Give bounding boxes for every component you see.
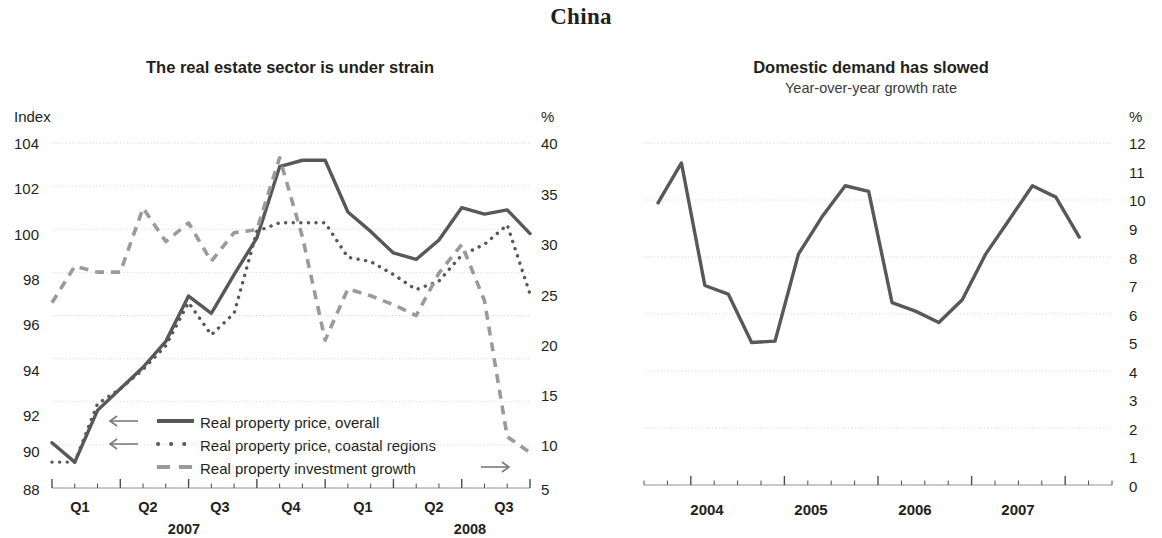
legend-arrow-right-investment <box>481 462 509 472</box>
left-chart-plot <box>0 0 592 538</box>
chart-panel-right: Domestic demand has slowed Year-over-yea… <box>592 0 1162 538</box>
legend-arrow-left-coastal <box>110 439 138 449</box>
left-series-real-property-price-overall <box>52 160 530 462</box>
legend-arrow-left-overall <box>110 416 138 426</box>
right-chart-plot <box>592 0 1162 538</box>
chart-panel-left: The real estate sector is under strain I… <box>0 0 592 538</box>
right-series-domestic-demand-growth <box>658 163 1079 343</box>
left-series-real-property-investment-growth <box>52 158 530 453</box>
